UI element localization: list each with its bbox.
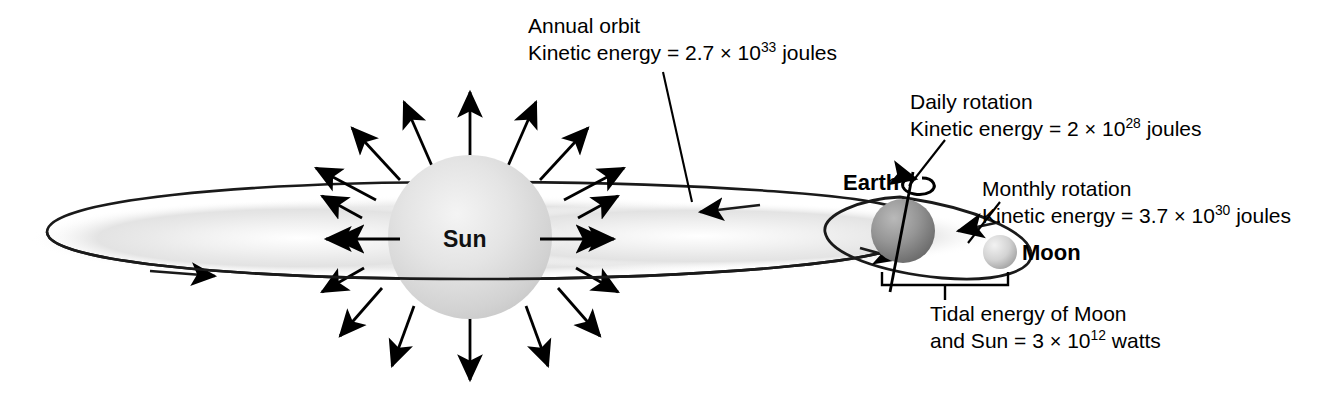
earth-label: Earth xyxy=(843,170,899,196)
annual-orbit-value: Kinetic energy = 2.7 × 1033 joules xyxy=(528,39,837,67)
diagram-canvas: Annual orbit Kinetic energy = 2.7 × 1033… xyxy=(0,0,1331,404)
callout-tidal-energy: Tidal energy of Moon and Sun = 3 × 1012 … xyxy=(930,300,1161,355)
tidal-energy-brace xyxy=(882,272,1008,300)
multiplication-sign: × xyxy=(1050,330,1062,352)
monthly-rotation-exponent: 30 xyxy=(1215,202,1230,218)
moon-label: Moon xyxy=(1022,240,1081,266)
sun-label: Sun xyxy=(443,226,486,253)
callout-monthly-rotation: Monthly rotation Kinetic energy = 3.7 × … xyxy=(982,175,1291,230)
tidal-energy-value: and Sun = 3 × 1012 watts xyxy=(930,327,1161,355)
callout-annual-orbit: Annual orbit Kinetic energy = 2.7 × 1033… xyxy=(528,12,837,67)
monthly-rotation-value: Kinetic energy = 3.7 × 1030 joules xyxy=(982,202,1291,230)
multiplication-sign: × xyxy=(1174,205,1186,227)
multiplication-sign: × xyxy=(720,42,732,64)
annual-orbit-exponent: 33 xyxy=(761,39,776,55)
tidal-energy-exponent: 12 xyxy=(1091,327,1106,343)
annual-orbit-leader xyxy=(663,72,692,202)
daily-rotation-value: Kinetic energy = 2 × 1028 joules xyxy=(910,115,1202,143)
daily-rotation-title: Daily rotation xyxy=(910,88,1202,115)
callout-daily-rotation: Daily rotation Kinetic energy = 2 × 1028… xyxy=(910,88,1202,143)
moon-sphere xyxy=(983,235,1017,269)
tidal-energy-title: Tidal energy of Moon xyxy=(930,300,1161,327)
daily-rotation-exponent: 28 xyxy=(1125,115,1140,131)
multiplication-sign: × xyxy=(1085,118,1097,140)
monthly-rotation-title: Monthly rotation xyxy=(982,175,1291,202)
annual-orbit-title: Annual orbit xyxy=(528,12,837,39)
